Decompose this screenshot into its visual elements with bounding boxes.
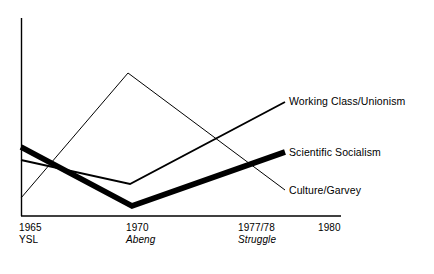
x-tick-1965-year: 1965: [19, 222, 42, 234]
x-tick-1977-78: 1977/78 Struggle: [238, 222, 276, 246]
chart-figure: Working Class/Unionism Scientific Social…: [0, 0, 434, 274]
x-tick-1970-sublabel: Abeng: [126, 234, 155, 246]
series-line-culture-garvey: [21, 73, 285, 198]
series-line-scientific-socialism: [21, 147, 285, 206]
series-label-working-class-unionism: Working Class/Unionism: [289, 95, 405, 107]
series-label-scientific-socialism: Scientific Socialism: [289, 146, 381, 158]
chart-plot-area: [0, 0, 434, 274]
x-tick-1977-78-sublabel: Struggle: [238, 234, 276, 246]
series-line-working-class-unionism: [21, 102, 285, 184]
x-tick-1970: 1970 Abeng: [126, 222, 155, 246]
x-tick-1977-78-year: 1977/78: [238, 222, 276, 234]
x-tick-1965-sublabel: YSL: [19, 234, 42, 246]
x-tick-1980: 1980: [318, 222, 341, 234]
x-tick-1965: 1965 YSL: [19, 222, 42, 246]
x-tick-1970-year: 1970: [126, 222, 155, 234]
x-tick-1980-year: 1980: [318, 222, 341, 234]
series-label-culture-garvey: Culture/Garvey: [289, 184, 361, 196]
